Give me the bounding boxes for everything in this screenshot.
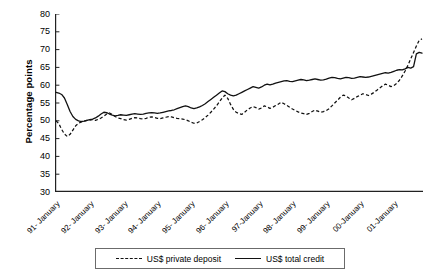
y-tick-label: 35 — [28, 170, 50, 179]
y-tick-label: 55 — [28, 99, 50, 108]
solid-line-swatch-icon — [235, 255, 261, 262]
y-tick-label: 75 — [28, 27, 50, 36]
x-axis-tick-labels: 91- January92- January93- January94- Jan… — [0, 196, 429, 256]
y-tick-label: 45 — [28, 134, 50, 143]
y-tick-label: 70 — [28, 45, 50, 54]
legend-label-total-credit: US$ total credit — [266, 254, 324, 264]
legend-item-private-deposit: US$ private deposit — [116, 254, 221, 264]
legend-label-private-deposit: US$ private deposit — [147, 254, 221, 264]
chart-legend: US$ private deposit US$ total credit — [95, 248, 345, 269]
plot-area — [55, 14, 423, 192]
y-tick-label: 60 — [28, 81, 50, 90]
legend-item-total-credit: US$ total credit — [235, 254, 324, 264]
line-us-private-deposit — [56, 39, 422, 137]
y-tick-label: 80 — [28, 10, 50, 19]
series-canvas — [55, 14, 423, 192]
y-tick-label: 65 — [28, 63, 50, 72]
y-axis-tick-labels: 3035404550556065707580 — [26, 0, 50, 192]
dashed-line-swatch-icon — [116, 255, 142, 262]
chart-figure: Percentage points 3035404550556065707580… — [0, 0, 429, 275]
y-tick-label: 40 — [28, 152, 50, 161]
line-us-total-credit — [56, 52, 422, 121]
axes-group — [55, 14, 423, 192]
y-tick-label: 50 — [28, 116, 50, 125]
